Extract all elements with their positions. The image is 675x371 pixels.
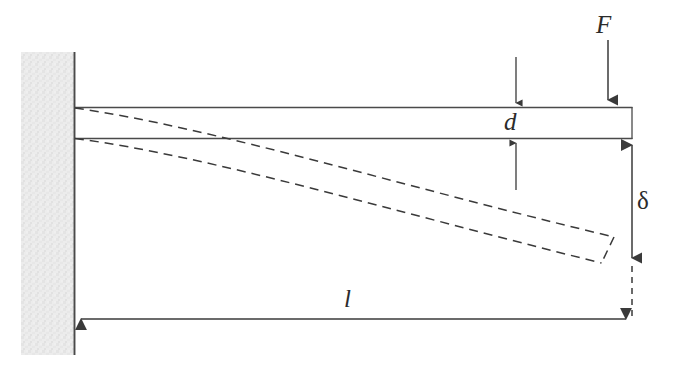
- force-label: F: [596, 12, 611, 37]
- undeformed-beam: [74, 107, 633, 139]
- diagram-canvas: [0, 0, 675, 371]
- length-label: l: [344, 286, 351, 311]
- deflected-beam-tip-cap: [602, 237, 615, 263]
- depth-label: d: [504, 109, 517, 134]
- fixed-wall-support: [21, 52, 75, 355]
- deflected-beam-top-curve: [75, 108, 614, 237]
- cantilever-beam-diagram: F d l δ: [0, 0, 675, 371]
- deflected-beam: [75, 108, 614, 263]
- wall-hatch-fill: [21, 52, 74, 355]
- deflection-label: δ: [637, 188, 649, 213]
- deflected-beam-bottom-curve: [75, 139, 602, 264]
